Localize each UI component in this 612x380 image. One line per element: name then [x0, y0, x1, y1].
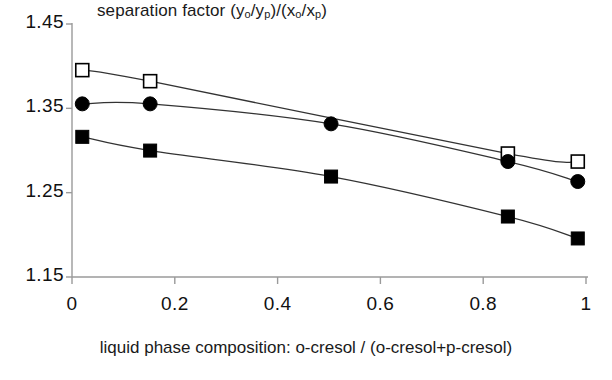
x-axis-tick-label: 0.4 — [255, 293, 301, 315]
x-axis-tick-labels: 00.20.40.60.81 — [0, 0, 612, 380]
chart-figure: separation factor (yo/yp)/(xo/xp) 1.151.… — [0, 0, 612, 380]
x-axis-tick-label: 0.6 — [357, 293, 403, 315]
x-axis-tick-label: 0.2 — [152, 293, 198, 315]
x-axis-title: liquid phase composition: o-cresol / (o-… — [0, 338, 612, 358]
x-axis-tick-label: 0.8 — [460, 293, 506, 315]
x-axis-tick-label: 0 — [49, 293, 95, 315]
x-axis-tick-label: 1 — [563, 293, 609, 315]
